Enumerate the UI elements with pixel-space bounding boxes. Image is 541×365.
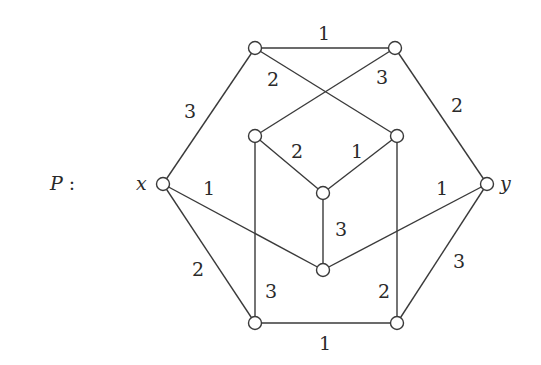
edge-weight-label: 2 (378, 280, 390, 302)
graph-diagram: 132322131123321 xy P: (0, 0, 541, 365)
edge-x-bc (163, 184, 323, 270)
vertex-y (481, 178, 494, 191)
edge-il-c (255, 136, 323, 193)
graph-name-label: P: (49, 172, 75, 194)
edge-weight-label: 2 (192, 258, 204, 280)
edge-weight-label: 1 (203, 177, 215, 199)
graph-name: P (49, 172, 64, 194)
vertex-br (391, 317, 404, 330)
edge-weight-label: 3 (453, 250, 465, 272)
edge-weight-label: 2 (451, 94, 463, 116)
edge-weight-label: 2 (291, 140, 303, 162)
edge-weight-label: 3 (376, 66, 388, 88)
edge-x-bl (163, 184, 255, 323)
edge-weight-label: 1 (436, 177, 448, 199)
edge-weight-label: 1 (351, 140, 363, 162)
edge-weight-label: 1 (319, 332, 331, 354)
edge-tr-y (395, 48, 487, 184)
vertex-ir (391, 130, 404, 143)
edge-weight-label: 1 (318, 22, 330, 44)
edge-y-br (397, 184, 487, 323)
vertex-c (317, 187, 330, 200)
edge-weight-label: 3 (265, 280, 277, 302)
edge-weight-label: 3 (335, 218, 347, 240)
vertex-label-y: y (499, 172, 511, 194)
edge-weight-label: 2 (267, 68, 279, 90)
vertex-x (157, 178, 170, 191)
vertex-bl (249, 317, 262, 330)
vertex-tr (389, 42, 402, 55)
vertex-il (249, 130, 262, 143)
vertex-bc (317, 264, 330, 277)
edge-weight-label: 3 (184, 100, 196, 122)
vertex-label-x: x (136, 172, 147, 194)
edge-x-tl (163, 48, 255, 184)
vertex-tl (249, 42, 262, 55)
